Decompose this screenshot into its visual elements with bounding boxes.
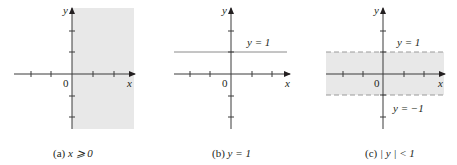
y-axis-label: y [373, 4, 379, 16]
x-axis-label: x [126, 77, 132, 89]
panel-b: y x 0 y = 1 (b) y = 1 [174, 4, 290, 160]
origin-label: 0 [222, 77, 228, 89]
shaded-region-x-nonnegative [72, 8, 134, 129]
x-axis-label: x [284, 77, 290, 89]
panel-c: y x 0 y = 1 y = −1 (c) | y | < 1 [326, 4, 445, 160]
x-axis-label: x [437, 77, 443, 89]
y-axis-label: y [62, 4, 68, 16]
caption-b: (b) y = 1 [212, 147, 251, 160]
origin-label: 0 [63, 77, 69, 89]
figure: y x 0 (a) x ⩾ 0 y x 0 y = 1 (b) y = 1 [0, 0, 457, 165]
caption-c: (c) | y | < 1 [365, 147, 415, 160]
upper-line-label: y = 1 [396, 36, 420, 48]
lower-line-label: y = −1 [392, 102, 424, 114]
line-label: y = 1 [246, 36, 270, 48]
panel-a: y x 0 (a) x ⩾ 0 [14, 4, 135, 160]
caption-a: (a) x ⩾ 0 [53, 147, 93, 160]
y-axis-label: y [221, 4, 227, 16]
origin-label: 0 [374, 77, 380, 89]
